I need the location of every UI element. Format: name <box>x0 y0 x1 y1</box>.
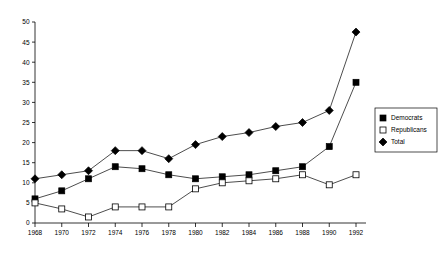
data-point-democrats <box>219 174 225 180</box>
legend-marker-democrats <box>380 115 386 121</box>
data-point-republicans <box>193 186 199 192</box>
y-tick-label: 0 <box>26 219 30 226</box>
x-tick-label: 1990 <box>322 229 337 236</box>
chart-legend: DemocratsRepublicansTotal <box>375 108 437 152</box>
x-tick-label: 1980 <box>188 229 203 236</box>
data-point-republicans <box>246 178 252 184</box>
data-point-republicans <box>32 200 38 206</box>
x-tick-label: 1984 <box>242 229 257 236</box>
data-point-republicans <box>300 172 306 178</box>
x-tick-label: 1992 <box>349 229 364 236</box>
data-point-democrats <box>59 188 65 194</box>
legend-label-total: Total <box>391 138 405 145</box>
data-point-democrats <box>86 176 92 182</box>
line-chart: 05101520253035404550 1968197019721974197… <box>0 0 442 261</box>
data-point-republicans <box>59 206 65 212</box>
x-tick-label: 1982 <box>215 229 230 236</box>
y-tick-label: 35 <box>22 79 30 86</box>
y-tick-label: 50 <box>22 18 30 25</box>
x-tick-label: 1976 <box>135 229 150 236</box>
data-point-democrats <box>166 172 172 178</box>
y-tick-label: 20 <box>22 139 30 146</box>
x-tick-label: 1978 <box>162 229 177 236</box>
data-point-democrats <box>353 79 359 85</box>
data-point-republicans <box>86 214 92 220</box>
y-tick-label: 25 <box>22 119 30 126</box>
data-point-republicans <box>219 180 225 186</box>
x-tick-label: 1970 <box>55 229 70 236</box>
data-point-democrats <box>300 164 306 170</box>
data-point-democrats <box>112 164 118 170</box>
data-point-democrats <box>326 144 332 150</box>
y-tick-label: 10 <box>22 179 30 186</box>
y-tick-label: 40 <box>22 59 30 66</box>
data-point-democrats <box>193 176 199 182</box>
chart-container: 05101520253035404550 1968197019721974197… <box>0 0 442 261</box>
data-point-democrats <box>246 172 252 178</box>
y-tick-label: 30 <box>22 99 30 106</box>
x-tick-label: 1974 <box>108 229 123 236</box>
data-point-republicans <box>112 204 118 210</box>
data-point-democrats <box>273 168 279 174</box>
x-tick-label: 1986 <box>269 229 284 236</box>
data-point-republicans <box>273 176 279 182</box>
data-point-republicans <box>326 182 332 188</box>
data-point-democrats <box>139 166 145 172</box>
y-tick-label: 15 <box>22 159 30 166</box>
legend-label-democrats: Democrats <box>391 114 423 121</box>
data-point-republicans <box>139 204 145 210</box>
x-tick-label: 1968 <box>28 229 43 236</box>
x-tick-label: 1988 <box>295 229 310 236</box>
data-point-republicans <box>166 204 172 210</box>
y-tick-label: 5 <box>26 199 30 206</box>
y-tick-label: 45 <box>22 39 30 46</box>
legend-label-republicans: Republicans <box>391 126 428 134</box>
legend-marker-republicans <box>380 127 386 133</box>
x-tick-label: 1972 <box>81 229 96 236</box>
data-point-republicans <box>353 172 359 178</box>
